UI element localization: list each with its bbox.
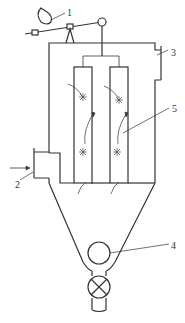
flow-arrow <box>104 86 118 98</box>
housing-wall <box>49 43 161 183</box>
pulse-mark-icon <box>79 148 87 156</box>
leader-line-4 <box>110 244 169 253</box>
pulse-mark-icon <box>113 148 121 156</box>
discharge-neck <box>92 271 106 276</box>
pivot-pin <box>98 18 106 26</box>
inlet-arrow-icon <box>26 166 30 170</box>
housing <box>10 43 168 183</box>
pulse-marks <box>79 93 123 156</box>
hopper <box>49 183 155 271</box>
diagram-canvas <box>0 0 185 323</box>
leader-line-2 <box>20 172 33 180</box>
bag-filter-diagram: 1 2 3 4 5 <box>0 0 185 323</box>
flow-arrow <box>78 182 86 194</box>
label-1: 1 <box>67 8 72 18</box>
counterweight <box>32 30 38 35</box>
filter-bag-2 <box>110 67 128 183</box>
inlet-flange <box>34 148 49 183</box>
lever-mechanism <box>25 8 106 56</box>
balloon-weight-icon <box>38 8 52 24</box>
flow-arrow <box>118 114 126 144</box>
inlet-baffle <box>49 153 74 183</box>
pulse-mark-icon <box>115 96 123 104</box>
label-4: 4 <box>171 241 176 251</box>
filter-bag-1 <box>74 67 92 183</box>
leader-line-3 <box>157 50 168 55</box>
pulse-mark-icon <box>79 93 87 101</box>
leader-line-1 <box>51 13 65 20</box>
label-3: 3 <box>171 48 176 58</box>
pivot-support <box>66 29 74 43</box>
rotary-valve-cross <box>91 279 107 295</box>
discharge-pipe <box>92 298 106 312</box>
flow-arrow <box>111 182 119 194</box>
label-5: 5 <box>172 104 177 114</box>
label-2: 2 <box>15 180 20 190</box>
blowpipe-manifold <box>83 56 119 67</box>
leader-line-5 <box>123 108 169 133</box>
screw-conveyor <box>88 242 110 264</box>
